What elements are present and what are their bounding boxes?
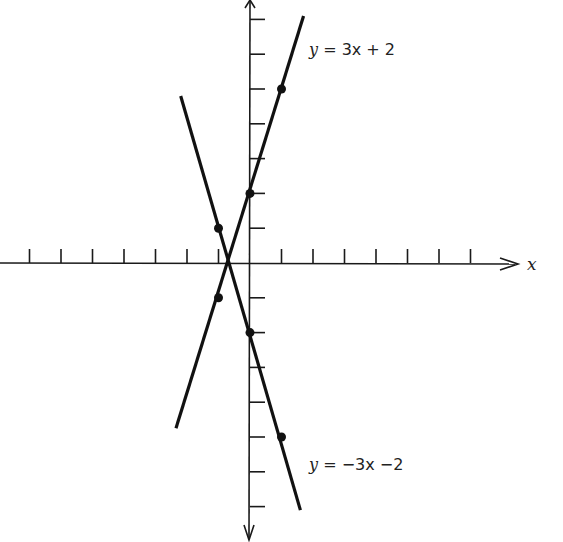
line1-label-y: y bbox=[309, 40, 318, 59]
y-axis bbox=[249, 0, 250, 538]
x-axis-label: x bbox=[527, 254, 537, 274]
data-point bbox=[277, 433, 286, 442]
line2-label-rest: = −3x −2 bbox=[318, 455, 403, 474]
line1-label: y = 3x + 2 bbox=[309, 40, 395, 59]
line-1 bbox=[176, 16, 304, 428]
data-point bbox=[277, 85, 286, 94]
line2-label-y: y bbox=[309, 455, 318, 474]
line2-label: y = −3x −2 bbox=[309, 455, 403, 474]
data-point bbox=[246, 189, 255, 198]
data-point bbox=[214, 293, 223, 302]
data-point bbox=[214, 224, 223, 233]
axes bbox=[0, 0, 518, 540]
x-axis bbox=[0, 263, 515, 264]
data-point bbox=[246, 328, 255, 337]
line1-label-rest: = 3x + 2 bbox=[318, 40, 395, 59]
coordinate-plot bbox=[0, 0, 563, 542]
line-2 bbox=[181, 96, 301, 510]
